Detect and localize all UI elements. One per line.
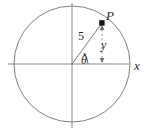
drop-arrow-down-icon: [100, 58, 105, 63]
trig-circle-figure: P 5 θ y x: [0, 0, 151, 132]
label-point-p: P: [106, 9, 114, 22]
label-angle-theta: θ: [81, 54, 87, 66]
point-p-marker: [99, 20, 104, 25]
label-vertical-y: y: [101, 39, 106, 51]
label-x-axis: x: [134, 59, 140, 72]
label-radius-length: 5: [78, 30, 84, 42]
figure-canvas: [0, 0, 151, 132]
